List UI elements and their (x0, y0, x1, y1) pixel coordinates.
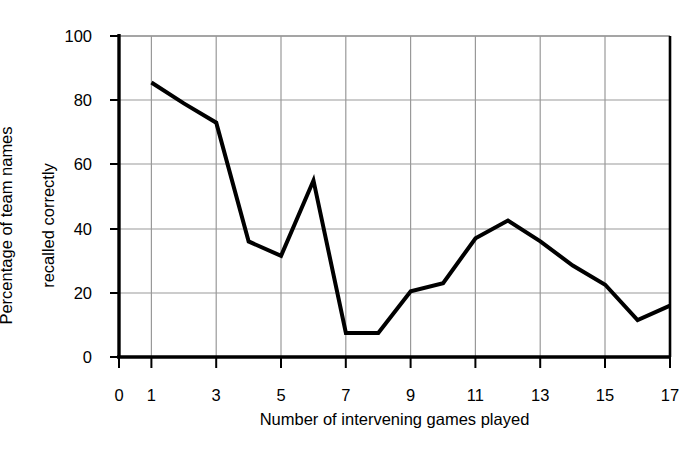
x-tick-label: 17 (661, 386, 679, 405)
x-tick-label: 13 (531, 386, 549, 405)
vertical-gridlines (151, 36, 605, 357)
x-tick-label: 1 (147, 386, 156, 405)
plot-area (0, 0, 694, 451)
line-chart-figure: Percentage of team names recalled correc… (0, 0, 694, 451)
horizontal-gridlines (119, 36, 670, 293)
x-tick-label: 11 (467, 386, 484, 405)
x-tick-label: 15 (596, 386, 614, 405)
x-tick-label: 3 (212, 386, 221, 405)
x-tick-label: 9 (406, 386, 415, 405)
x-tick-label: 5 (276, 386, 285, 405)
x-tick-label: 0 (114, 386, 123, 405)
x-axis-title: Number of intervening games played (119, 410, 670, 429)
x-tick-label: 7 (341, 386, 350, 405)
